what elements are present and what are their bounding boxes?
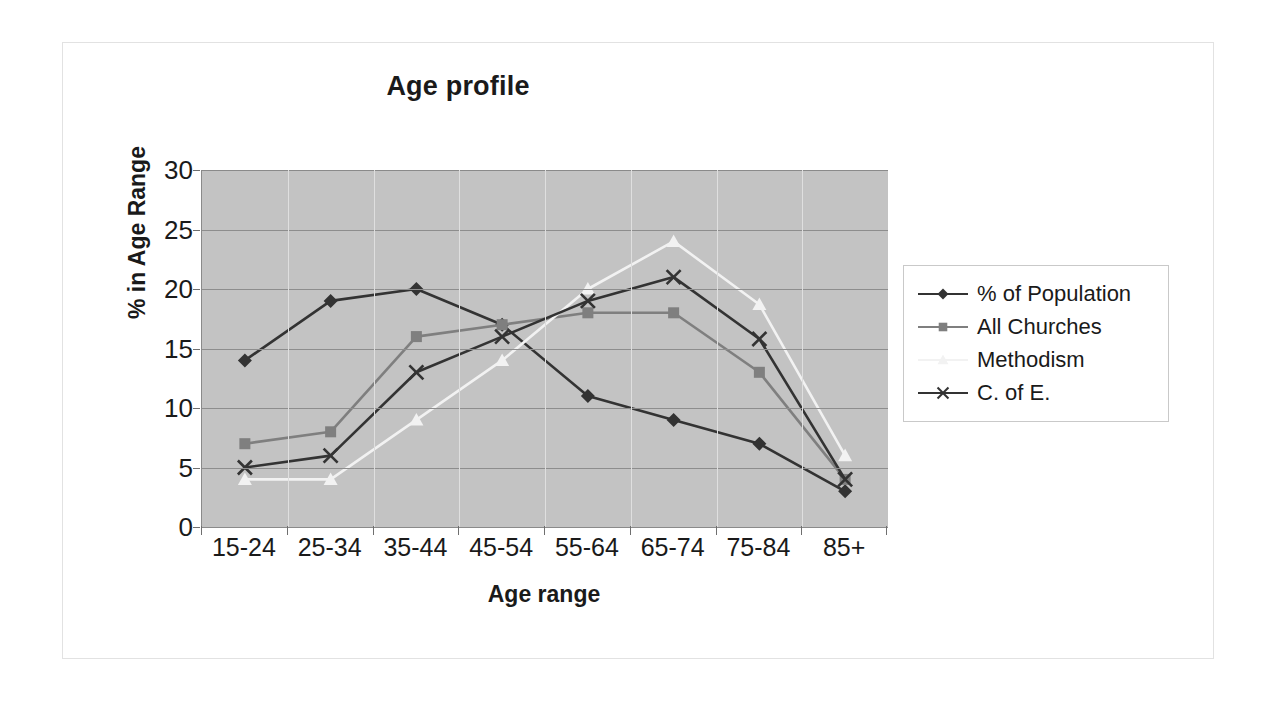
legend-item[interactable]: C. of E. <box>916 376 1156 409</box>
data-point-marker <box>325 426 336 437</box>
chart-title: Age profile <box>63 71 853 102</box>
y-tick-mark <box>193 230 200 231</box>
data-point-marker <box>754 367 765 378</box>
y-tick-label: 10 <box>137 395 193 421</box>
y-tick-label: 20 <box>137 276 193 302</box>
x-tick-mark <box>886 526 887 535</box>
data-point-marker <box>411 331 422 342</box>
data-point-marker <box>667 270 681 284</box>
x-tick-mark <box>458 526 459 535</box>
category-separator <box>288 170 289 527</box>
x-tick-mark <box>287 526 288 535</box>
y-tick-label: 0 <box>137 514 193 540</box>
legend-item-label: Methodism <box>977 349 1085 371</box>
y-tick-mark <box>193 408 200 409</box>
chart-figure: Age profile % in Age Range 051015202530 … <box>62 42 1214 659</box>
y-tick-mark <box>193 349 200 350</box>
square-marker <box>916 316 970 338</box>
y-tick-label: 25 <box>137 217 193 243</box>
data-point-marker <box>838 449 852 462</box>
diamond-marker <box>916 283 970 305</box>
x-axis-tick-labels: 15-2425-3435-4445-5455-6465-7475-8485+ <box>201 535 887 575</box>
legend-item-label: All Churches <box>977 316 1102 338</box>
data-point-marker <box>239 438 250 449</box>
y-tick-label: 30 <box>137 157 193 183</box>
data-point-marker <box>668 307 679 318</box>
data-point-marker <box>667 413 681 427</box>
y-tick-label: 15 <box>137 336 193 362</box>
y-tick-mark <box>193 527 200 528</box>
y-axis-tick-labels: 051015202530 <box>131 170 193 527</box>
data-point-marker <box>581 294 595 308</box>
data-point-marker <box>582 307 593 318</box>
x-tick-mark <box>801 526 802 535</box>
data-point-marker <box>409 365 423 379</box>
data-point-marker <box>497 319 508 330</box>
x-axis-title: Age range <box>201 581 887 608</box>
category-separator <box>631 170 632 527</box>
category-separator <box>802 170 803 527</box>
data-point-marker <box>752 332 766 346</box>
data-point-marker <box>409 413 423 426</box>
category-separator <box>545 170 546 527</box>
x-tick-mark <box>544 526 545 535</box>
x-tick-mark <box>716 526 717 535</box>
y-tick-mark <box>193 170 200 171</box>
legend-item-label: % of Population <box>977 283 1131 305</box>
legend-item-label: C. of E. <box>977 382 1050 404</box>
y-tick-label: 5 <box>137 455 193 481</box>
triangle-marker <box>916 349 970 371</box>
data-point-marker <box>495 330 509 344</box>
x-tick-label: 85+ <box>789 535 899 560</box>
legend-item[interactable]: % of Population <box>916 277 1156 310</box>
category-separator <box>459 170 460 527</box>
x-tick-mark <box>373 526 374 535</box>
y-tick-mark <box>193 289 200 290</box>
y-tick-mark <box>193 468 200 469</box>
data-point-marker <box>838 484 852 498</box>
chart-legend: % of PopulationAll ChurchesMethodismC. o… <box>903 265 1169 422</box>
legend-item[interactable]: All Churches <box>916 310 1156 343</box>
category-separator <box>717 170 718 527</box>
cross-marker <box>916 382 970 404</box>
x-tick-mark <box>630 526 631 535</box>
plot-area <box>201 170 888 528</box>
x-tick-mark <box>201 526 202 535</box>
legend-item[interactable]: Methodism <box>916 343 1156 376</box>
category-separator <box>374 170 375 527</box>
data-point-marker <box>667 234 681 247</box>
data-point-marker <box>752 437 766 451</box>
